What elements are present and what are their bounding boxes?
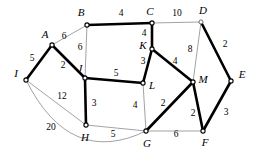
node-label-g: G xyxy=(143,137,151,149)
node-label-j: J xyxy=(78,62,84,74)
edge-weight-g-m: 2 xyxy=(161,98,166,108)
edge-weight-l-g: 4 xyxy=(133,100,138,110)
edge-weight-c-k: 4 xyxy=(142,28,147,38)
graph-node-l xyxy=(141,81,145,85)
graph-edge-m-f xyxy=(193,82,203,131)
graph-edge-l-g xyxy=(143,83,146,131)
graph-node-a xyxy=(50,43,54,47)
graph-diagram: 641064825253412342235620 ABCDEFGHIJKLM xyxy=(0,0,257,159)
edge-weight-k-m: 4 xyxy=(173,56,178,66)
graph-node-e xyxy=(229,79,233,83)
graph-node-f xyxy=(201,129,205,133)
node-label-k: K xyxy=(138,39,147,51)
edge-weight-a-j: 2 xyxy=(61,60,66,70)
node-label-m: M xyxy=(197,73,208,85)
graph-edge-j-l xyxy=(85,78,143,83)
edge-weight-i-h: 12 xyxy=(57,91,67,101)
graph-node-i xyxy=(24,78,28,82)
node-label-d: D xyxy=(198,4,207,16)
node-label-e: E xyxy=(238,68,246,80)
edge-weight-b-c: 4 xyxy=(119,8,124,18)
graph-node-h xyxy=(84,123,88,127)
node-label-c: C xyxy=(146,5,154,17)
node-label-h: H xyxy=(80,131,90,143)
graph-edge-c-d xyxy=(152,22,201,23)
graph-node-k xyxy=(150,47,154,51)
graph-edge-j-h xyxy=(85,78,86,125)
edge-weight-k-l: 3 xyxy=(141,56,146,66)
edge-weight-a-b: 6 xyxy=(62,31,67,41)
graph-node-b xyxy=(85,23,89,27)
graph-node-c xyxy=(150,21,154,25)
edge-weight-d-e: 2 xyxy=(223,39,228,49)
edge-weight-m-f: 2 xyxy=(191,108,196,118)
edge-weight-g-f: 6 xyxy=(174,129,179,139)
edge-weight-j-h: 3 xyxy=(92,98,97,108)
edge-weight-i-a: 5 xyxy=(30,53,35,63)
node-label-a: A xyxy=(41,28,49,40)
edge-weight-j-l: 5 xyxy=(114,68,119,78)
edge-weight-i-g: 20 xyxy=(46,122,56,132)
graph-node-j xyxy=(83,76,87,80)
node-label-b: B xyxy=(78,6,85,18)
graph-node-g xyxy=(144,129,148,133)
graph-edge-h-g xyxy=(86,125,146,131)
graph-canvas: 641064825253412342235620 ABCDEFGHIJKLM xyxy=(0,0,257,159)
graph-edge-b-j xyxy=(85,25,87,78)
graph-edge-e-f xyxy=(203,81,231,131)
graph-node-m xyxy=(191,80,195,84)
edge-weight-d-m: 8 xyxy=(188,44,193,54)
node-label-i: I xyxy=(13,67,19,79)
edge-weight-b-j: 6 xyxy=(78,42,83,52)
edge-weight-c-d: 10 xyxy=(172,8,182,18)
graph-node-d xyxy=(199,20,203,24)
edge-weight-e-f: 3 xyxy=(224,107,229,117)
graph-edge-i-h xyxy=(26,80,86,125)
node-label-l: L xyxy=(148,79,155,91)
edge-weight-h-g: 5 xyxy=(111,129,116,139)
node-label-f: F xyxy=(201,136,209,148)
graph-edge-b-c xyxy=(87,23,152,25)
